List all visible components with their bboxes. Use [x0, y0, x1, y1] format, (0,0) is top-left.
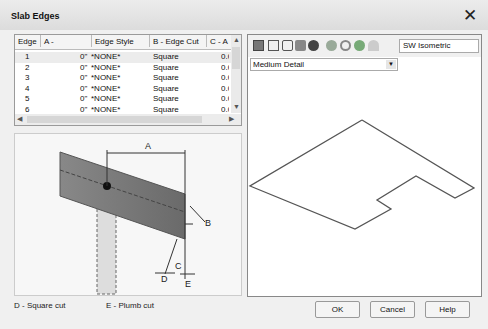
save-icon[interactable] — [253, 40, 264, 51]
shaded-icon[interactable] — [295, 40, 306, 51]
horizontal-scrollbar[interactable]: ◀ ▶ — [15, 114, 241, 125]
slab-edges-dialog: Slab Edges ✕ Edge A - Overhang Edge Styl… — [0, 0, 488, 329]
overhang-illustration: A B C D E — [15, 134, 243, 297]
table-row[interactable]: 40"*NONE*Square0.0 — [15, 84, 233, 95]
light-icon[interactable] — [368, 40, 379, 51]
legend-plumb-cut: E - Plumb cut — [106, 301, 154, 310]
col-edge-style[interactable]: Edge Style — [92, 35, 150, 47]
view-direction-select[interactable]: SW Isometric — [399, 39, 479, 53]
zoom-icon[interactable] — [340, 40, 351, 51]
vertical-scrollbar[interactable]: ▲ ▼ — [231, 35, 241, 113]
detail-level-select[interactable]: Medium Detail ▼ — [250, 58, 398, 71]
pan-icon[interactable] — [354, 40, 365, 51]
svg-text:A: A — [145, 141, 151, 151]
dialog-title: Slab Edges — [11, 11, 60, 21]
ok-button[interactable]: OK — [315, 301, 360, 318]
chevron-down-icon[interactable]: ▼ — [386, 60, 396, 69]
table-row[interactable]: 30"*NONE*Square0.0 — [15, 73, 233, 84]
svg-text:D: D — [161, 274, 168, 284]
svg-text:B: B — [205, 218, 211, 228]
view-cube-icon[interactable] — [268, 40, 279, 51]
wireframe-icon[interactable] — [282, 40, 293, 51]
col-edge-cut[interactable]: B - Edge Cut — [150, 35, 207, 47]
scroll-right-icon[interactable]: ▶ — [229, 115, 234, 123]
scroll-thumb[interactable] — [232, 47, 240, 69]
table-row[interactable]: 50"*NONE*Square0.0 — [15, 94, 233, 105]
help-button[interactable]: Help — [425, 301, 470, 318]
orbit-icon[interactable] — [326, 40, 337, 51]
scroll-down-icon[interactable]: ▼ — [233, 103, 240, 110]
table-row[interactable]: 10"*NONE*Square0.0 — [15, 52, 233, 63]
viewer-toolbar: SW Isometric — [248, 35, 481, 57]
3d-viewer[interactable]: SW Isometric Medium Detail ▼ — [247, 34, 482, 297]
cancel-button[interactable]: Cancel — [370, 301, 415, 318]
scroll-left-icon[interactable]: ◀ — [17, 115, 22, 123]
slab-preview — [248, 73, 481, 296]
edges-table[interactable]: Edge A - Overhang Edge Style B - Edge Cu… — [14, 34, 242, 126]
table-header: Edge A - Overhang Edge Style B - Edge Cu… — [15, 35, 233, 50]
scroll-up-icon[interactable]: ▲ — [233, 36, 240, 43]
table-row[interactable]: 20"*NONE*Square0.0 — [15, 63, 233, 74]
legend-square-cut: D - Square cut — [14, 301, 66, 310]
title-bar: Slab Edges ✕ — [0, 0, 488, 30]
col-overhang[interactable]: A - Overhang — [41, 35, 92, 47]
col-c[interactable]: C - A — [207, 35, 233, 47]
hscroll-thumb[interactable] — [27, 116, 202, 123]
close-icon[interactable]: ✕ — [463, 7, 477, 24]
svg-text:C: C — [175, 261, 182, 271]
col-edge[interactable]: Edge — [15, 35, 41, 47]
render-icon[interactable] — [308, 40, 319, 51]
edge-diagram: A B C D E — [14, 133, 242, 296]
svg-text:E: E — [185, 279, 191, 289]
